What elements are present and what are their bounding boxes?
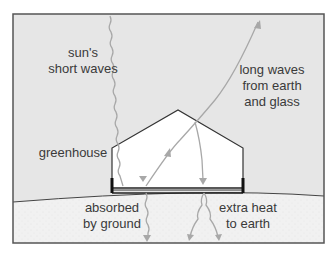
label-long-waves: long waves from earth and glass — [232, 62, 312, 110]
label-line: and glass — [232, 94, 312, 110]
label-greenhouse: greenhouse — [38, 145, 108, 161]
label-sun-short-waves: sun's short waves — [46, 45, 120, 77]
label-line: extra heat — [216, 200, 280, 216]
label-absorbed: absorbed by ground — [80, 200, 144, 232]
greenhouse-diagram — [0, 0, 335, 255]
label-line: sun's — [46, 45, 120, 61]
label-line: long waves — [232, 62, 312, 78]
label-line: from earth — [232, 78, 312, 94]
label-extra-heat: extra heat to earth — [216, 200, 280, 232]
label-line: absorbed — [80, 200, 144, 216]
label-line: by ground — [80, 216, 144, 232]
label-line: to earth — [216, 216, 280, 232]
label-line: short waves — [46, 61, 120, 77]
